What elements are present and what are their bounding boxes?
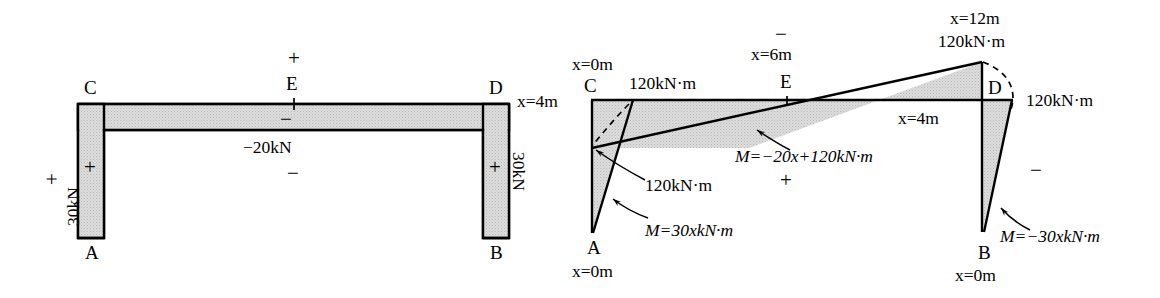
left-column-outer-plus-sign: + bbox=[42, 173, 63, 185]
x-label-right-near-d: x=4m bbox=[898, 110, 939, 128]
right-column-shear-value: 30kN bbox=[510, 152, 528, 191]
moment-label-top-d: 120kN·m bbox=[938, 33, 1005, 51]
x-label-at-b: x=0m bbox=[955, 267, 996, 285]
column-a-moment-equation: M=30xkN·m bbox=[645, 222, 733, 240]
beam-shear-value: −20kN bbox=[243, 139, 292, 157]
right-node-label-e: E bbox=[780, 72, 792, 91]
x-label-at-c: x=0m bbox=[572, 56, 613, 74]
x-label-top-d: x=12m bbox=[950, 10, 1000, 28]
x-label-left-of-c: x=4m bbox=[517, 93, 558, 111]
figure-canvas: C A D B E + − −20kN − 30kN + + 30kN + x=… bbox=[0, 0, 1160, 298]
right-node-label-b: B bbox=[978, 243, 991, 262]
beam-below-minus-sign: − bbox=[287, 163, 299, 184]
right-node-label-d: D bbox=[988, 78, 1002, 97]
right-node-label-a: A bbox=[587, 238, 601, 257]
left-column-inner-plus-sign: + bbox=[84, 157, 96, 178]
minus-sign-right-b: − bbox=[1030, 160, 1042, 181]
left-node-label-b: B bbox=[490, 243, 503, 262]
right-node-label-c: C bbox=[584, 76, 597, 95]
beam-inner-minus-sign: − bbox=[280, 109, 292, 130]
left-column-shear-value: 30kN bbox=[65, 187, 83, 226]
minus-sign-above-e: − bbox=[775, 24, 787, 45]
plus-sign-below-beam: + bbox=[780, 170, 792, 191]
left-node-label-c: C bbox=[84, 78, 97, 97]
x-label-at-a: x=0m bbox=[572, 263, 613, 281]
left-node-label-e: E bbox=[286, 74, 298, 93]
x-label-at-e: x=6m bbox=[751, 46, 792, 64]
left-node-label-a: A bbox=[85, 243, 99, 262]
left-node-label-d: D bbox=[489, 78, 503, 97]
moment-label-right-d: 120kN·m bbox=[1026, 92, 1093, 110]
moment-label-top-c: 120kN·m bbox=[629, 75, 696, 93]
beam-moment-equation: M=−20x+120kN·m bbox=[735, 148, 873, 166]
moment-callout-c: 120kN·m bbox=[645, 177, 712, 195]
right-column-inner-plus-sign: + bbox=[489, 157, 501, 178]
beam-top-plus-sign: + bbox=[288, 48, 300, 69]
leader-equation-a bbox=[613, 199, 648, 218]
column-b-moment-equation: M=−30xkN·m bbox=[1000, 228, 1100, 246]
